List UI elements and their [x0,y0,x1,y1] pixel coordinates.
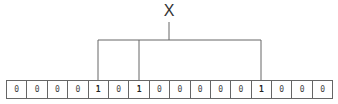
bit-cell-5: 0 [109,81,129,98]
bit-cell-3: 0 [68,81,88,98]
bit-cell-0: 0 [7,81,27,98]
bit-cell-1: 0 [27,81,47,98]
bit-array: 0 0 0 0 1 0 1 0 0 0 0 0 1 0 0 0 [6,80,333,99]
bit-cell-12: 1 [252,81,272,98]
bit-cell-6: 1 [129,81,149,98]
bit-cell-14: 0 [292,81,312,98]
bit-cell-2: 0 [48,81,68,98]
bit-cell-7: 0 [150,81,170,98]
bit-cell-11: 0 [231,81,251,98]
bit-cell-13: 0 [272,81,292,98]
bit-cell-15: 0 [313,81,333,98]
bit-cell-8: 0 [170,81,190,98]
bit-cell-10: 0 [211,81,231,98]
bit-cell-4: 1 [89,81,109,98]
bit-cell-9: 0 [191,81,211,98]
